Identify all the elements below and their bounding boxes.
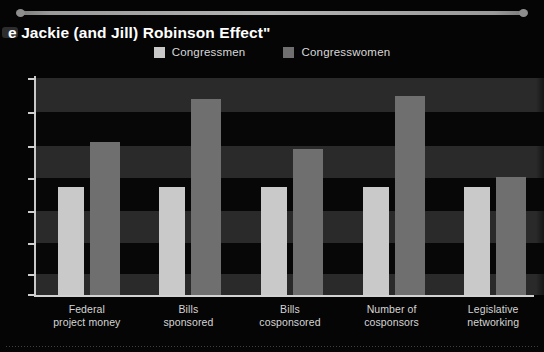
y-axis-tick-5 <box>28 243 36 245</box>
legend-swatch-congresswomen <box>283 47 294 58</box>
x-label-line: Federal <box>36 303 138 316</box>
y-axis-tick-4 <box>28 211 36 213</box>
x-label-line: Bills <box>138 303 240 316</box>
bar-congressmen <box>464 187 490 296</box>
bar-group <box>36 78 138 295</box>
bar-congresswomen <box>496 177 526 295</box>
chart-bars <box>36 78 544 295</box>
bar-congresswomen <box>90 142 120 295</box>
chart-legend: Congressmen Congresswomen <box>0 46 544 58</box>
x-label-1: Federalproject money <box>36 303 138 329</box>
x-label-2: Billssponsored <box>138 303 240 329</box>
y-axis-tick-2 <box>28 146 36 148</box>
legend-swatch-congressmen <box>154 47 165 58</box>
x-label-line: sponsored <box>138 316 240 329</box>
x-label-line: cosponsored <box>239 316 341 329</box>
bar-congresswomen <box>191 99 221 295</box>
y-axis-tick-0 <box>28 78 36 80</box>
x-label-line: Bills <box>239 303 341 316</box>
x-label-5: Legislativenetworking <box>442 303 544 329</box>
bar-group <box>239 78 341 295</box>
page-title: e Jackie (and Jill) Robinson Effect" <box>8 24 270 42</box>
y-axis-tick-6 <box>28 274 36 276</box>
bar-congressmen <box>363 187 389 296</box>
x-axis-category-labels: Federalproject moneyBillssponsoredBillsc… <box>36 303 544 337</box>
x-label-line: cosponsors <box>341 316 443 329</box>
legend-item-congresswomen: Congresswomen <box>283 46 390 58</box>
x-label-4: Number ofcosponsors <box>341 303 443 329</box>
legend-item-congressmen: Congressmen <box>154 46 246 58</box>
y-axis-tick-1 <box>28 112 36 114</box>
x-axis-line <box>34 295 534 297</box>
legend-label-congressmen: Congressmen <box>172 46 246 58</box>
bar-congressmen <box>58 187 84 296</box>
x-label-line: networking <box>442 316 544 329</box>
bar-group <box>442 78 544 295</box>
legend-label-congresswomen: Congresswomen <box>301 46 390 58</box>
x-label-line: Number of <box>341 303 443 316</box>
footer-dotted-rule <box>6 346 540 347</box>
bar-congresswomen <box>293 149 323 295</box>
x-label-line: project money <box>36 316 138 329</box>
x-label-line: Legislative <box>442 303 544 316</box>
header-divider-rule <box>20 11 524 15</box>
y-axis-tick-3 <box>28 178 36 180</box>
bar-congressmen <box>159 187 185 296</box>
bar-congresswomen <box>395 96 425 295</box>
x-label-3: Billscosponsored <box>239 303 341 329</box>
bar-group <box>138 78 240 295</box>
bar-congressmen <box>261 187 287 296</box>
bar-group <box>341 78 443 295</box>
